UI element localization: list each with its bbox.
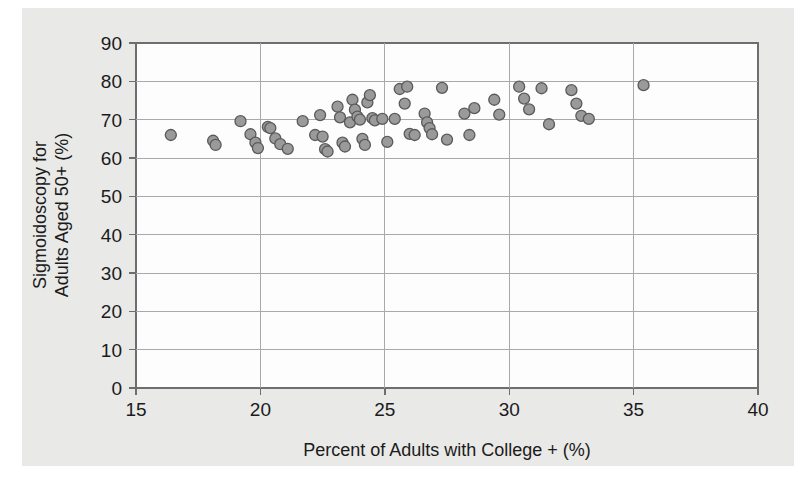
x-tick-label: 30 (499, 399, 520, 420)
x-tick-label: 15 (125, 399, 146, 420)
y-axis-tick-labels: 0102030405060708090 (101, 33, 122, 399)
plot-frame (136, 43, 758, 388)
data-point (382, 136, 393, 147)
y-tick-label: 90 (101, 33, 122, 54)
data-point (210, 139, 221, 150)
x-axis-title: Percent of Adults with College + (%) (303, 440, 591, 460)
data-point (339, 141, 350, 152)
data-point (519, 93, 530, 104)
data-point (459, 108, 470, 119)
data-point (494, 109, 505, 120)
data-point (427, 129, 438, 140)
data-point (297, 116, 308, 127)
data-point (524, 104, 535, 115)
data-point (364, 90, 375, 101)
y-tick-label: 30 (101, 263, 122, 284)
x-tick-label: 35 (623, 399, 644, 420)
plot-area-background (136, 43, 758, 388)
data-point (409, 130, 420, 141)
data-point (235, 116, 246, 127)
data-point (399, 98, 410, 109)
data-point (536, 83, 547, 94)
data-point (335, 112, 346, 123)
data-point (359, 139, 370, 150)
x-tick-label: 25 (374, 399, 395, 420)
y-tick-label: 70 (101, 110, 122, 131)
y-tick-label: 0 (111, 378, 122, 399)
data-point (583, 113, 594, 124)
data-point (469, 103, 480, 114)
data-point (347, 94, 358, 105)
y-tick-label: 20 (101, 301, 122, 322)
y-tick-label: 80 (101, 71, 122, 92)
data-point (317, 131, 328, 142)
data-point (377, 113, 388, 124)
data-point (566, 85, 577, 96)
y-tick-label: 10 (101, 340, 122, 361)
data-point (464, 130, 475, 141)
data-point (252, 143, 263, 154)
data-point (265, 123, 276, 134)
data-point (402, 81, 413, 92)
data-point (571, 98, 582, 109)
data-point (544, 119, 555, 130)
data-point (514, 81, 525, 92)
data-point (389, 113, 400, 124)
data-point (332, 101, 343, 112)
data-point (437, 82, 448, 93)
y-tick-label: 50 (101, 186, 122, 207)
y-tick-label: 60 (101, 148, 122, 169)
y-axis-title-line2: Adults Aged 50+ (%) (52, 133, 72, 298)
y-axis-title: Sigmoidoscopy for Adults Aged 50+ (%) (30, 133, 72, 298)
x-axis-tick-labels: 152025303540 (125, 399, 768, 420)
scatter-chart: 152025303540 0102030405060708090 Percent… (0, 0, 808, 495)
data-point (354, 114, 365, 125)
figure-root: 152025303540 0102030405060708090 Percent… (0, 0, 808, 495)
data-point (489, 94, 500, 105)
x-tick-label: 40 (747, 399, 768, 420)
data-point (442, 134, 453, 145)
data-point (282, 143, 293, 154)
data-point (315, 110, 326, 121)
data-point (165, 130, 176, 141)
data-point (322, 146, 333, 157)
y-tick-label: 40 (101, 225, 122, 246)
y-axis-title-line1: Sigmoidoscopy for (30, 141, 50, 289)
x-tick-label: 20 (250, 399, 271, 420)
data-point (638, 80, 649, 91)
